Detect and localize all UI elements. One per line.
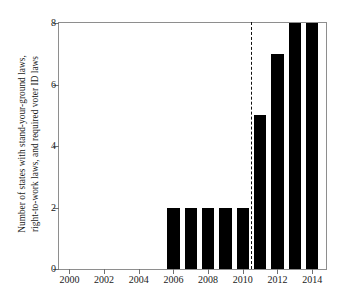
- y-tick-label: 8: [51, 18, 56, 28]
- y-tick-label: 4: [51, 141, 56, 151]
- y-axis-label-line-2: right-to-work laws, and required voter I…: [28, 19, 41, 269]
- y-axis-label: Number of states with stand-your-ground …: [8, 18, 48, 270]
- x-tick-label: 2004: [129, 275, 149, 285]
- bar-2007: [185, 208, 197, 270]
- y-tick-label: 2: [51, 203, 56, 213]
- x-tick-label: 2006: [163, 275, 183, 285]
- bar-2013: [289, 23, 301, 269]
- bar-chart-figure: Number of states with stand-your-ground …: [0, 0, 337, 301]
- plot-area: 02468 20002002200420062008201020122014: [58, 22, 327, 270]
- y-tick-label: 0: [51, 264, 56, 274]
- y-axis-label-line-1: Number of states with stand-your-ground …: [16, 19, 29, 269]
- x-tick-label: 2000: [59, 275, 79, 285]
- y-tick-label: 6: [51, 80, 56, 90]
- bar-2011: [254, 115, 266, 269]
- bar-2012: [271, 54, 283, 269]
- x-tick-label: 2010: [233, 275, 253, 285]
- reference-line-2010.5: [251, 22, 252, 269]
- x-tick-label: 2002: [94, 275, 114, 285]
- bar-2006: [167, 208, 179, 270]
- bar-2014: [306, 23, 318, 269]
- x-tick-label: 2008: [198, 275, 218, 285]
- bar-2009: [219, 208, 231, 270]
- x-tick-label: 2012: [267, 275, 287, 285]
- bar-2010: [237, 208, 249, 270]
- bar-2008: [202, 208, 214, 270]
- x-tick-label: 2014: [302, 275, 322, 285]
